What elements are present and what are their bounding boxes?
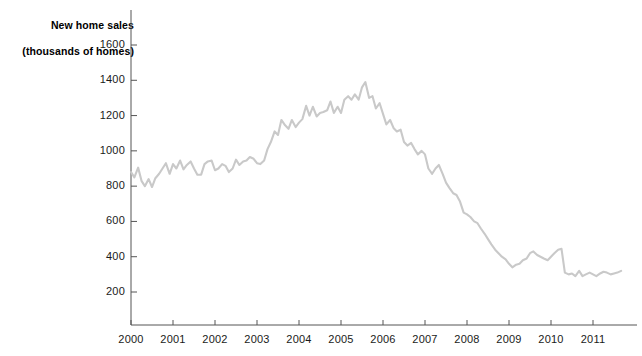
y-axis-tick-label: 1200 <box>65 109 125 121</box>
axis-lines <box>131 10 637 325</box>
y-axis-tick-label: 600 <box>65 214 125 226</box>
x-axis-tick-label: 2011 <box>563 333 623 345</box>
y-axis-tick-label: 1600 <box>65 38 125 50</box>
y-axis-tick-label: 1400 <box>65 73 125 85</box>
chart-canvas <box>0 0 642 356</box>
new-home-sales-chart: New home sales (thousands of homes) 2004… <box>0 0 642 356</box>
y-axis-tick-label: 400 <box>65 250 125 262</box>
y-axis-tick-label: 800 <box>65 179 125 191</box>
x-axis-ticks <box>131 320 593 325</box>
y-axis-tick-label: 1000 <box>65 144 125 156</box>
new-home-sales-line <box>131 82 621 276</box>
y-axis-tick-label: 200 <box>65 285 125 297</box>
y-axis-ticks <box>131 45 137 292</box>
